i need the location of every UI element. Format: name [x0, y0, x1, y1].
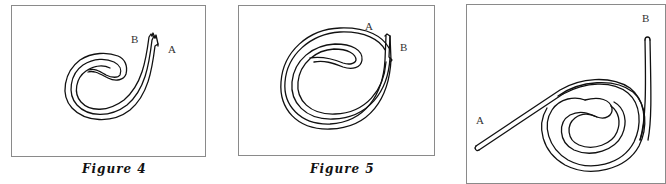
- figure-6-coil-icon: [475, 37, 651, 171]
- figure-4-coil-icon: [65, 33, 158, 120]
- figure-5-coil-icon: [281, 28, 392, 129]
